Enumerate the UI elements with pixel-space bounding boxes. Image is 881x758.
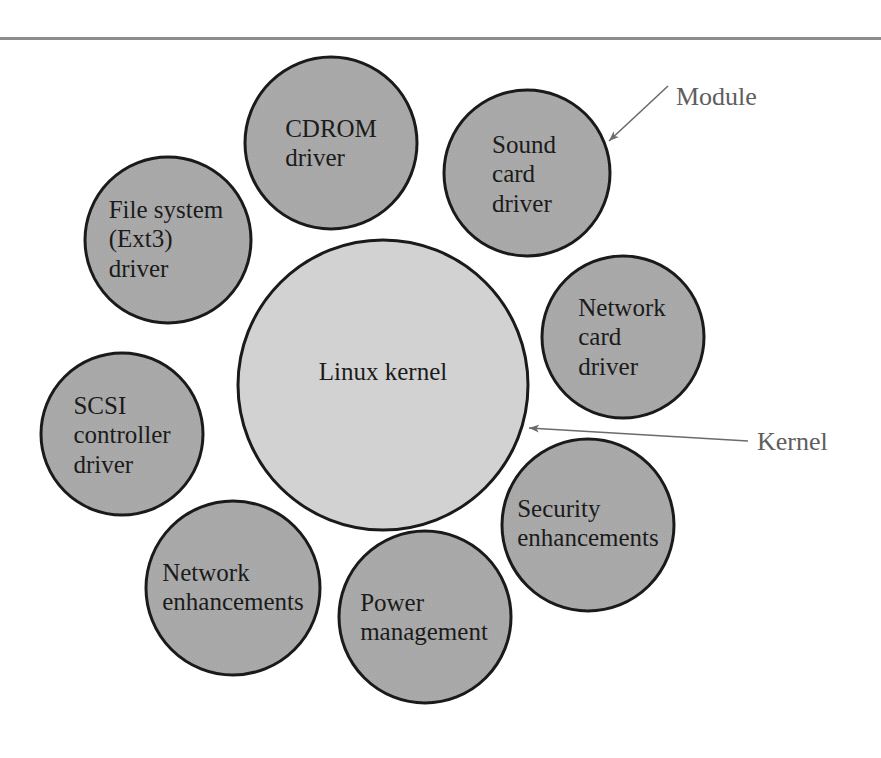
texture-network-enhancements <box>147 502 319 674</box>
texture-file-system-ext3-driver <box>86 158 250 322</box>
texture-network-card-driver <box>543 257 703 417</box>
texture-scsi-controller-driver <box>42 354 202 514</box>
texture-power-management <box>340 532 510 702</box>
texture-sound-card-driver <box>445 91 609 255</box>
callout-arrow-kernel-callout <box>529 428 748 441</box>
kernel-circle[interactable] <box>238 240 528 530</box>
diagram-vector-layer <box>0 0 881 758</box>
texture-cdrom-driver <box>246 58 416 228</box>
kernel-circle-group <box>238 240 528 530</box>
diagram-canvas: Linux kernel CDROM driver Sound card dri… <box>0 0 881 758</box>
texture-security-enhancements <box>503 440 673 610</box>
callout-arrow-module-callout <box>609 86 668 141</box>
